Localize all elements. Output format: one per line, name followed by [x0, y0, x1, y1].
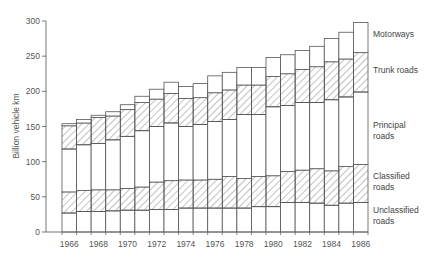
segment-trunk-roads: [237, 85, 252, 115]
segment-trunk-roads: [353, 53, 368, 92]
segment-classified-roads: [353, 164, 368, 202]
segment-trunk-roads: [91, 117, 106, 143]
segment-motorways: [62, 124, 77, 126]
segment-principal-roads: [120, 136, 135, 188]
y-tick-label: 150: [26, 122, 40, 132]
x-tick-label: 1980: [264, 239, 283, 249]
bar-1982: [295, 51, 310, 232]
segment-principal-roads: [149, 127, 164, 183]
segment-unclassified-roads: [237, 208, 252, 232]
segment-motorways: [135, 96, 150, 102]
segment-trunk-roads: [77, 123, 92, 145]
segment-trunk-roads: [193, 98, 208, 125]
x-tick-label: 1978: [235, 239, 254, 249]
segment-classified-roads: [106, 190, 121, 211]
segment-trunk-roads: [179, 98, 194, 126]
segment-principal-roads: [208, 122, 223, 180]
label-principal-roads: Principalroads: [373, 120, 406, 141]
y-tick-label: 250: [26, 51, 40, 61]
label-motorways: Motorways: [373, 29, 414, 39]
y-axis: 050100150200250300: [26, 16, 46, 237]
segment-principal-roads: [310, 103, 325, 169]
segment-unclassified-roads: [251, 207, 266, 232]
segment-classified-roads: [135, 187, 150, 210]
y-tick-label: 0: [35, 227, 40, 237]
segment-motorways: [208, 76, 223, 93]
segment-classified-roads: [193, 180, 208, 208]
bar-1973: [164, 82, 179, 232]
segment-motorways: [106, 112, 121, 116]
segment-unclassified-roads: [266, 207, 281, 232]
segment-trunk-roads: [281, 74, 296, 106]
bar-1969: [106, 112, 121, 232]
segment-unclassified-roads: [135, 210, 150, 232]
segment-unclassified-roads: [62, 213, 77, 232]
bar-1983: [310, 46, 325, 232]
segment-motorways: [339, 32, 354, 59]
bar-1966: [62, 124, 77, 232]
label-classified-roads: Classifiedroads: [373, 171, 410, 192]
segment-principal-roads: [164, 123, 179, 181]
y-tick-label: 200: [26, 86, 40, 96]
segment-unclassified-roads: [339, 203, 354, 232]
segment-trunk-roads: [251, 85, 266, 115]
segment-unclassified-roads: [149, 209, 164, 232]
x-axis: 1966196819701972197419761978198019821984…: [46, 232, 370, 249]
segment-unclassified-roads: [310, 203, 325, 232]
bar-1976: [208, 76, 223, 232]
segment-motorways: [193, 84, 208, 98]
segment-motorways: [310, 46, 325, 66]
segment-classified-roads: [91, 190, 106, 212]
x-tick-label: 1976: [206, 239, 225, 249]
segment-trunk-roads: [106, 116, 121, 140]
segment-trunk-roads: [339, 59, 354, 97]
segment-motorways: [237, 67, 252, 85]
series-labels: UnclassifiedroadsClassifiedroadsPrincipa…: [373, 29, 419, 226]
segment-trunk-roads: [149, 99, 164, 126]
x-tick-label: 1970: [118, 239, 137, 249]
segment-unclassified-roads: [208, 208, 223, 232]
segment-trunk-roads: [135, 103, 150, 131]
segment-principal-roads: [222, 119, 237, 176]
bar-1977: [222, 72, 237, 232]
segment-principal-roads: [179, 127, 194, 180]
bar-1971: [135, 96, 150, 232]
segment-principal-roads: [91, 143, 106, 189]
segment-classified-roads: [266, 176, 281, 207]
segment-motorways: [266, 58, 281, 77]
x-tick-label: 1966: [60, 239, 79, 249]
segment-principal-roads: [295, 103, 310, 171]
segment-unclassified-roads: [120, 210, 135, 232]
x-tick-label: 1982: [293, 239, 312, 249]
segment-classified-roads: [164, 181, 179, 210]
segment-classified-roads: [62, 192, 77, 213]
segment-motorways: [179, 86, 194, 98]
bar-1974: [179, 86, 194, 232]
segment-classified-roads: [77, 191, 92, 212]
segment-principal-roads: [193, 124, 208, 180]
segment-motorways: [149, 89, 164, 99]
segment-trunk-roads: [310, 67, 325, 103]
y-axis-title: Billion vehicle km: [11, 93, 21, 158]
segment-principal-roads: [77, 145, 92, 191]
segment-motorways: [295, 51, 310, 70]
segment-trunk-roads: [164, 93, 179, 123]
segment-trunk-roads: [295, 70, 310, 103]
bar-1975: [193, 84, 208, 232]
segment-unclassified-roads: [324, 205, 339, 232]
segment-unclassified-roads: [77, 212, 92, 232]
bar-1972: [149, 89, 164, 232]
segment-principal-roads: [339, 97, 354, 167]
segment-principal-roads: [281, 105, 296, 171]
segment-classified-roads: [149, 182, 164, 209]
segment-trunk-roads: [324, 62, 339, 100]
stacked-bar-chart: 050100150200250300 196619681970197219741…: [0, 0, 436, 262]
segment-principal-roads: [135, 131, 150, 187]
segment-classified-roads: [324, 171, 339, 205]
segment-motorways: [222, 72, 237, 90]
bar-1985: [339, 32, 354, 232]
segment-principal-roads: [106, 140, 121, 190]
segment-classified-roads: [237, 179, 252, 209]
segment-principal-roads: [353, 92, 368, 164]
segment-classified-roads: [295, 170, 310, 202]
